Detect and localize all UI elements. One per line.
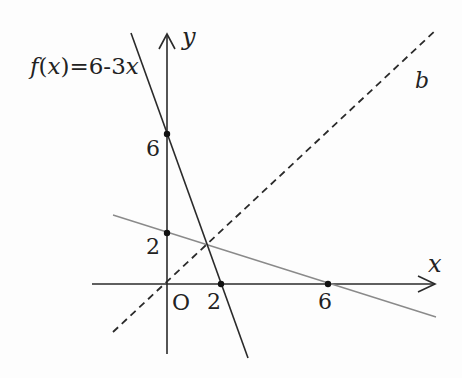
point-0-2: [164, 230, 170, 236]
function-label: f(x)=6-3x: [28, 53, 139, 79]
x-axis-label: x: [428, 250, 442, 278]
gray-line: [113, 215, 436, 317]
y-axis-label: y: [181, 23, 196, 51]
tick-label-x6: 6: [318, 289, 332, 314]
tick-label-y2: 2: [146, 234, 160, 259]
dashed-line-b: [113, 30, 436, 332]
tick-label-x2: 2: [207, 289, 221, 314]
coordinate-diagram: f(x)=6-3x y x b O 6 2 2 6: [0, 0, 462, 378]
point-2-0: [218, 281, 224, 287]
tick-label-y6: 6: [146, 136, 160, 161]
diagram-canvas: f(x)=6-3x y x b O 6 2 2 6: [0, 0, 462, 378]
line-b-label: b: [415, 68, 429, 93]
origin-label: O: [172, 290, 190, 315]
point-0-6: [164, 131, 170, 137]
point-6-0: [325, 281, 331, 287]
